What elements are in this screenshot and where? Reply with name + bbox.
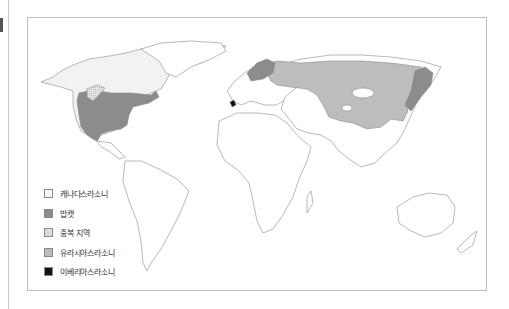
legend-item-iberian-lynx: 이베리아스라소니 <box>44 262 114 282</box>
legend-item-canada-lynx: 캐나다스라소니 <box>44 184 114 204</box>
south-america <box>123 161 189 271</box>
central-america <box>97 141 125 159</box>
legend-swatch <box>44 209 53 218</box>
legend-swatch <box>44 189 53 198</box>
left-margin-rule <box>8 0 9 309</box>
lynx-range-map: 캐나다스라소니 밥캣 중복 지역 유라시아스라소니 이베리아스라소니 <box>27 17 487 291</box>
madagascar <box>307 191 313 213</box>
legend-swatch <box>44 267 53 276</box>
legend-label: 캐나다스라소니 <box>60 188 108 199</box>
legend-label: 중복 지역 <box>60 227 90 238</box>
legend-label: 밥캣 <box>60 208 74 219</box>
map-legend: 캐나다스라소니 밥캣 중복 지역 유라시아스라소니 이베리아스라소니 <box>44 184 114 282</box>
legend-swatch <box>44 228 53 237</box>
australia <box>397 193 455 237</box>
africa <box>217 113 311 233</box>
legend-item-eurasian-lynx: 유라시아스라소니 <box>44 243 114 263</box>
new-zealand <box>457 231 477 253</box>
legend-item-overlap: 중복 지역 <box>44 223 114 243</box>
left-margin-marker <box>0 18 3 32</box>
legend-label: 이베리아스라소니 <box>60 266 114 277</box>
legend-swatch <box>44 248 53 257</box>
legend-label: 유라시아스라소니 <box>60 247 114 258</box>
legend-item-bobcat: 밥캣 <box>44 204 114 224</box>
